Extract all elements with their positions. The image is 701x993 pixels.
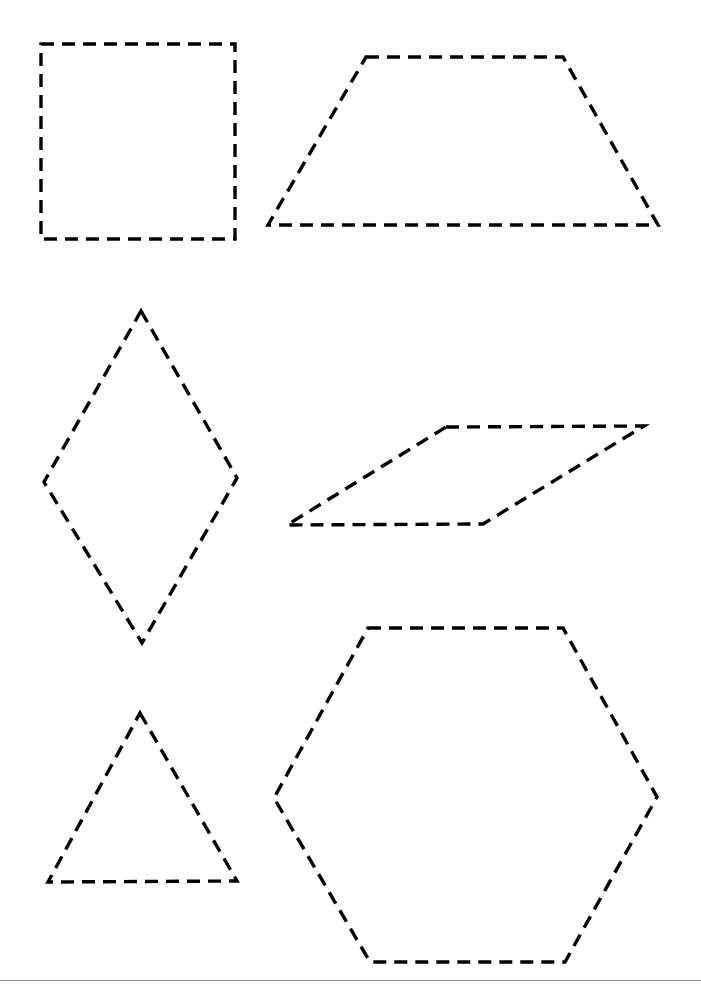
shapes-canvas: [0, 0, 701, 993]
shape-parallelogram[interactable]: [287, 426, 644, 525]
footer-divider: [0, 980, 701, 981]
shape-triangle[interactable]: [48, 713, 237, 882]
shape-trapezoid[interactable]: [268, 57, 658, 225]
worksheet-page: [0, 0, 701, 993]
shape-hexagon[interactable]: [274, 628, 657, 962]
shape-square[interactable]: [41, 44, 235, 239]
shape-rhombus[interactable]: [44, 311, 237, 643]
